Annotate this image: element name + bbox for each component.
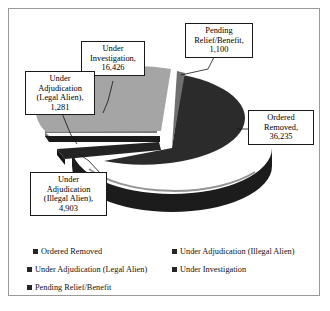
legend-marker-icon xyxy=(172,267,177,272)
legend-marker-icon xyxy=(27,267,32,272)
legend-item-under-investigation: Under Investigation xyxy=(172,263,246,275)
chart-legend: Ordered Removed Under Adjudication (Ille… xyxy=(9,241,319,295)
legend-marker-icon xyxy=(27,285,32,290)
legend-item-under-adjudication-illegal-alien: Under Adjudication (Illegal Alien) xyxy=(172,245,295,257)
legend-item-pending-relief-benefit: Pending Relief/Benefit xyxy=(27,281,111,293)
legend-item-label: Ordered Removed xyxy=(41,247,102,256)
callout-ordered-removed: Ordered Removed, 36,235 xyxy=(248,110,314,145)
legend-item-ordered-removed: Ordered Removed xyxy=(33,245,102,257)
legend-item-label: Under Adjudication (Legal Alien) xyxy=(35,265,147,274)
legend-item-label: Under Investigation xyxy=(180,265,246,274)
chart-frame: Pending Relief/Benefit, 1,100 Under Inve… xyxy=(8,8,320,296)
legend-item-label: Under Adjudication (Illegal Alien) xyxy=(180,247,295,256)
pie-chart: Pending Relief/Benefit, 1,100 Under Inve… xyxy=(9,9,319,237)
legend-item-label: Pending Relief/Benefit xyxy=(35,283,111,292)
callout-pending-relief-benefit: Pending Relief/Benefit, 1,100 xyxy=(185,23,253,58)
callout-under-adjudication-illegal-alien: Under Adjudication (Illegal Alien), 4,90… xyxy=(30,172,107,216)
legend-marker-icon xyxy=(172,249,177,254)
legend-marker-icon xyxy=(33,249,38,254)
pie-slice-legal-alien xyxy=(45,136,160,142)
callout-under-adjudication-legal-alien: Under Adjudication (Legal Alien), 1,281 xyxy=(25,71,95,115)
leader-line-pending xyxy=(181,55,215,75)
legend-item-under-adjudication-legal-alien: Under Adjudication (Legal Alien) xyxy=(27,263,147,275)
